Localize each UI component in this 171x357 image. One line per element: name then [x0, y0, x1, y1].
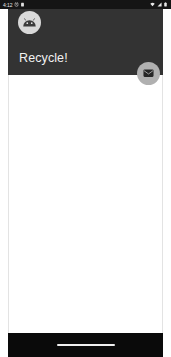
battery-icon [163, 2, 168, 7]
alarm-icon [14, 2, 19, 7]
status-bar: 4:12 [0, 0, 171, 9]
cell-signal-icon [157, 2, 162, 7]
system-navigation-bar [8, 333, 163, 357]
page-title: Recycle! [19, 51, 68, 66]
screen-gutter-left [0, 9, 8, 357]
status-bar-right-group [150, 2, 168, 7]
wifi-icon [150, 2, 155, 7]
content-surface [8, 75, 163, 333]
email-fab-button[interactable] [137, 62, 160, 85]
phone-screen: 4:12 [0, 0, 171, 357]
home-gesture-pill[interactable] [57, 344, 115, 347]
battery-saver-icon [20, 2, 25, 7]
recycler-view-list[interactable] [9, 75, 162, 333]
screen-gutter-right [163, 9, 171, 357]
status-bar-clock: 4:12 [3, 2, 12, 8]
status-bar-left-group: 4:12 [3, 2, 25, 8]
android-robot-icon[interactable] [18, 11, 41, 34]
email-icon [143, 69, 154, 78]
